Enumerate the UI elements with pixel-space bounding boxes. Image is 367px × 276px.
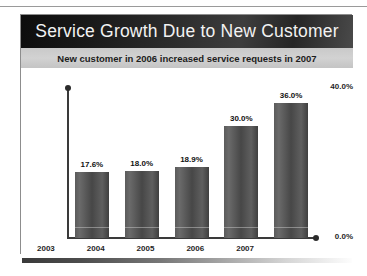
slide-frame: Service Growth Due to New Customer New c… <box>20 14 352 254</box>
bar-value-label-2003: 17.6% <box>69 160 115 169</box>
x-axis-category-label-2006: 2006 <box>172 244 218 253</box>
bar-value-label-2006: 30.0% <box>218 114 264 123</box>
bar-value-label-2007: 36.0% <box>268 91 314 100</box>
page-top-rule <box>0 6 367 7</box>
bar-slot: 17.6% <box>75 88 109 238</box>
x-axis-category-label-2004: 2004 <box>73 244 119 253</box>
bar-2004[interactable] <box>125 171 159 239</box>
bar-slot: 18.0% <box>125 88 159 238</box>
bar-slot: 18.9% <box>175 88 209 238</box>
slide-subtitle-band: New customer in 2006 increased service r… <box>21 48 353 68</box>
bar-2006[interactable] <box>224 126 258 239</box>
x-axis-category-label-2007: 2007 <box>222 244 268 253</box>
slide-title-band: Service Growth Due to New Customer <box>21 15 353 48</box>
bar-2005[interactable] <box>175 167 209 238</box>
bar-2003[interactable] <box>75 172 109 238</box>
slide-subtitle: New customer in 2006 increased service r… <box>57 53 316 64</box>
slide-title: Service Growth Due to New Customer <box>35 21 338 42</box>
bar-2007[interactable] <box>274 103 308 238</box>
bar-value-label-2004: 18.0% <box>119 159 165 168</box>
bar-chart: 40.0% 0.0% 17.6%18.0%18.9%30.0%36.0% 200… <box>21 68 353 254</box>
bar-slot: 30.0% <box>224 88 258 238</box>
x-axis-category-label-2003: 2003 <box>23 244 69 253</box>
x-axis-category-label-2005: 2005 <box>123 244 169 253</box>
slide-bottom-rule <box>22 258 352 263</box>
bar-series: 17.6%18.0%18.9%30.0%36.0% <box>67 88 316 238</box>
bar-value-label-2005: 18.9% <box>169 155 215 164</box>
bar-slot: 36.0% <box>274 88 308 238</box>
